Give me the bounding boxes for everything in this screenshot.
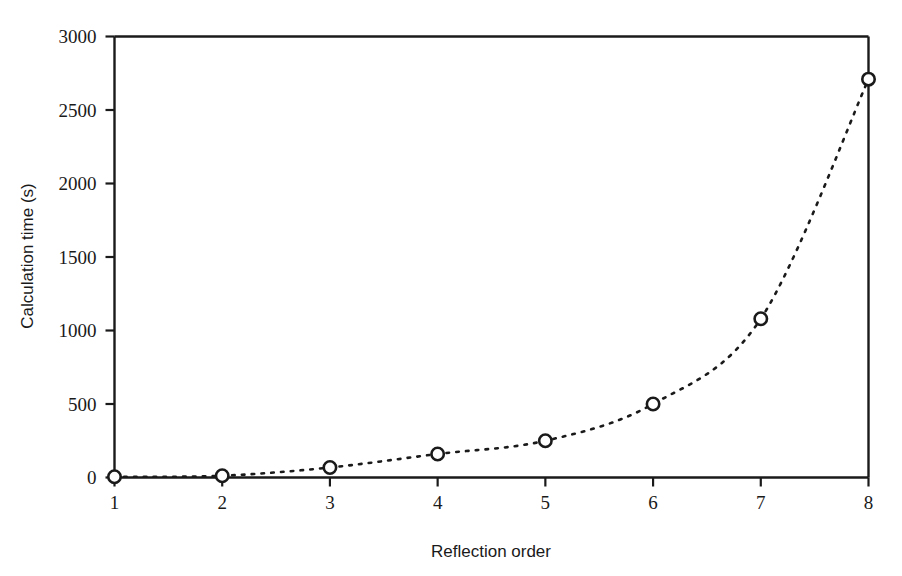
data-point-marker [862, 73, 874, 85]
chart-background [0, 0, 902, 576]
y-tick-label: 1500 [59, 247, 97, 268]
data-point-marker [324, 461, 336, 473]
y-tick-label: 0 [87, 467, 97, 488]
x-tick-label: 6 [648, 492, 658, 513]
x-tick-label: 7 [756, 492, 766, 513]
data-point-marker [108, 471, 120, 483]
data-point-marker [431, 448, 443, 460]
figure-page: 050010001500200025003000 12345678 Calcul… [0, 0, 902, 576]
y-tick-label: 500 [68, 394, 97, 415]
y-tick-label: 1000 [59, 320, 97, 341]
data-point-marker [216, 470, 228, 482]
data-point-marker [755, 313, 767, 325]
x-tick-label: 3 [325, 492, 335, 513]
y-axis-title: Calculation time (s) [18, 183, 37, 329]
x-tick-label: 1 [110, 492, 120, 513]
y-tick-label: 2500 [59, 100, 97, 121]
calculation-time-chart: 050010001500200025003000 12345678 Calcul… [0, 0, 902, 576]
y-tick-label: 2000 [59, 173, 97, 194]
x-tick-label: 8 [864, 492, 874, 513]
data-point-marker [647, 398, 659, 410]
x-tick-label: 5 [541, 492, 551, 513]
x-tick-label: 4 [433, 492, 443, 513]
y-tick-label: 3000 [59, 26, 97, 47]
x-axis-title: Reflection order [431, 542, 551, 561]
data-point-marker [539, 435, 551, 447]
x-tick-label: 2 [217, 492, 227, 513]
